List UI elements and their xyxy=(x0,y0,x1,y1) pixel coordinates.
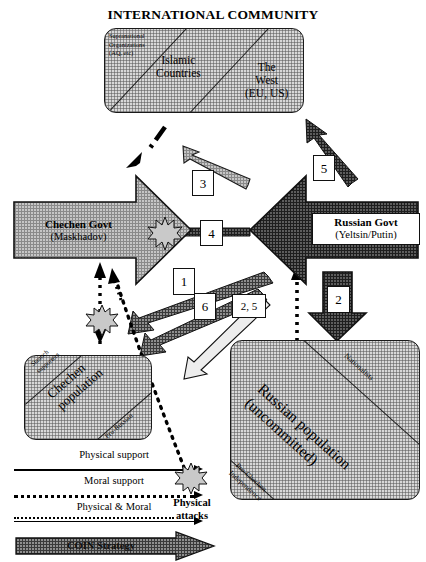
flow-tag-2-5[interactable]: 2, 5 xyxy=(232,294,266,318)
physical-attack-burst-population xyxy=(86,304,118,336)
flow-tag-1[interactable]: 1 xyxy=(173,268,195,295)
arrow-attacks-intl xyxy=(126,127,165,168)
flow-tag-5[interactable]: 5 xyxy=(313,155,335,181)
chechen-govt-label: Chechen Govt (Maskhadov) xyxy=(26,216,131,246)
chechen-govt-name: Chechen Govt xyxy=(45,218,112,230)
flow-tag-3[interactable]: 3 xyxy=(192,170,214,196)
physical-attack-burst-govt xyxy=(148,216,182,250)
russian-govt-leader: (Yeltsin/Putin) xyxy=(317,229,415,242)
legend-burst-icon xyxy=(174,462,208,494)
legend-label-physical-support: Physical support xyxy=(14,449,214,460)
flow-tag-6[interactable]: 6 xyxy=(194,293,216,320)
flow-tag-2[interactable]: 2 xyxy=(327,286,350,313)
legend-label-physical-attacks: Physical attacks xyxy=(160,496,224,522)
flow-tag-4[interactable]: 4 xyxy=(200,220,223,246)
russian-govt-label: Russian Govt (Yeltsin/Putin) xyxy=(312,213,420,245)
russian-govt-name: Russian Govt xyxy=(334,216,397,228)
legend-line-combined-dotted xyxy=(14,517,174,519)
chechen-govt-leader: (Maskhadov) xyxy=(30,231,127,244)
chechen-pop-divider-2 xyxy=(87,392,152,440)
legend-line-solid xyxy=(14,469,196,471)
legend-label-coin-strategy: COIN Strategy xyxy=(16,540,186,551)
